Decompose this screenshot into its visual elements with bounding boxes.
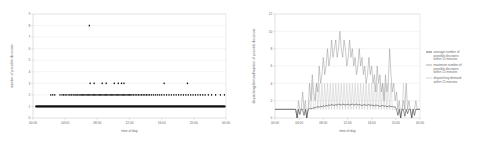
data-point	[86, 94, 87, 96]
series-line-max	[275, 31, 420, 118]
data-point	[73, 94, 74, 96]
data-point	[128, 94, 129, 96]
legend-label-demand: dispatching demandwithin 15 minutes	[434, 76, 462, 84]
y-tick-label: 8	[271, 47, 273, 51]
data-point	[107, 94, 108, 96]
legend-item-avg[interactable]: average number ofpossible decisionswithi…	[426, 50, 460, 61]
data-point	[94, 94, 95, 96]
data-point	[122, 94, 123, 96]
x-tick-label: 00:00	[222, 121, 230, 125]
data-point	[138, 94, 139, 96]
x-tick-label: 00:00	[271, 121, 279, 125]
data-point	[63, 94, 64, 96]
data-point	[166, 94, 167, 96]
data-point	[77, 94, 78, 96]
y-axis-title: dispatching demand/number of possible de…	[252, 28, 256, 103]
data-point	[133, 94, 134, 96]
data-point	[183, 94, 184, 96]
right-line-chart: 02468101200:0004:0008:0012:0016:0020:000…	[240, 0, 481, 149]
data-point	[50, 94, 51, 96]
data-point	[69, 94, 70, 96]
data-point	[176, 94, 177, 96]
left-scatter-chart: 012345678900:0004:0008:0012:0016:0020:00…	[0, 0, 240, 149]
data-point	[83, 94, 84, 96]
x-tick-label: 04:00	[295, 121, 303, 125]
data-point	[121, 83, 122, 85]
y-tick-label: 1	[29, 105, 31, 109]
data-point	[98, 94, 99, 96]
y-tick-label: 9	[29, 12, 31, 16]
data-point	[81, 94, 82, 96]
data-point	[95, 94, 96, 96]
x-tick-label: 12:00	[344, 121, 352, 125]
data-point	[202, 94, 203, 96]
data-point	[65, 94, 66, 96]
data-point	[163, 83, 164, 85]
data-point	[100, 94, 101, 96]
data-point	[141, 94, 142, 96]
y-tick-label: 5	[29, 58, 31, 62]
data-point	[113, 94, 114, 96]
data-point	[136, 94, 137, 96]
data-point	[208, 94, 209, 96]
data-point	[187, 83, 188, 85]
data-point	[105, 94, 106, 96]
data-point	[197, 94, 198, 96]
data-point	[84, 94, 85, 96]
data-point	[153, 94, 154, 96]
x-tick-label: 08:00	[93, 121, 101, 125]
data-point	[173, 94, 174, 96]
data-point	[75, 94, 76, 96]
data-point	[114, 94, 115, 96]
data-point	[119, 94, 120, 96]
legend-item-demand[interactable]: dispatching demandwithin 15 minutes	[426, 76, 461, 84]
x-tick-label: 00:00	[29, 121, 37, 125]
data-point	[89, 94, 90, 96]
legend-item-max[interactable]: maximum number ofpossible decisionswithi…	[426, 63, 462, 74]
x-tick-label: 04:00	[61, 121, 69, 125]
data-point	[106, 94, 107, 96]
data-point	[155, 94, 156, 96]
data-point	[224, 94, 225, 96]
data-point	[87, 94, 88, 96]
data-point	[143, 94, 144, 96]
data-point	[71, 94, 72, 96]
data-point	[151, 94, 152, 96]
data-point	[112, 94, 113, 96]
data-point	[139, 94, 140, 96]
data-point	[190, 94, 191, 96]
y-tick-label: 7	[29, 35, 31, 39]
data-point	[68, 94, 69, 96]
data-point	[135, 94, 136, 96]
data-point	[111, 94, 112, 96]
data-point	[102, 83, 103, 85]
data-point	[110, 94, 111, 96]
data-point	[171, 94, 172, 96]
legend-label-max: maximum number ofpossible decisionswithi…	[434, 63, 462, 74]
y-tick-label: 12	[269, 12, 273, 16]
data-point	[104, 94, 105, 96]
y-tick-label: 0	[271, 116, 273, 120]
data-point	[178, 94, 179, 96]
data-point	[118, 94, 119, 96]
x-tick-label: 20:00	[392, 121, 400, 125]
data-point	[161, 94, 162, 96]
data-point	[195, 94, 196, 96]
data-point	[149, 94, 150, 96]
y-tick-label: 8	[29, 24, 31, 28]
data-point	[146, 94, 147, 96]
data-point	[147, 94, 148, 96]
y-tick-label: 4	[271, 82, 273, 86]
y-tick-label: 0	[29, 116, 31, 120]
data-point	[94, 83, 95, 85]
data-point	[106, 83, 107, 85]
data-point	[116, 94, 117, 96]
data-point	[168, 94, 169, 96]
data-point	[188, 94, 189, 96]
data-point	[78, 94, 79, 96]
x-tick-label: 12:00	[126, 121, 134, 125]
data-point	[211, 94, 212, 96]
data-point	[220, 94, 221, 96]
data-point	[54, 94, 55, 96]
data-point	[89, 83, 90, 85]
